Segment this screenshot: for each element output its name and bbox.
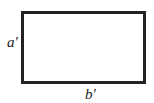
side-label-a-prime: a′ xyxy=(7,35,18,50)
side-label-b-prime: b′ xyxy=(85,87,96,102)
rectangle-shape xyxy=(21,11,146,84)
